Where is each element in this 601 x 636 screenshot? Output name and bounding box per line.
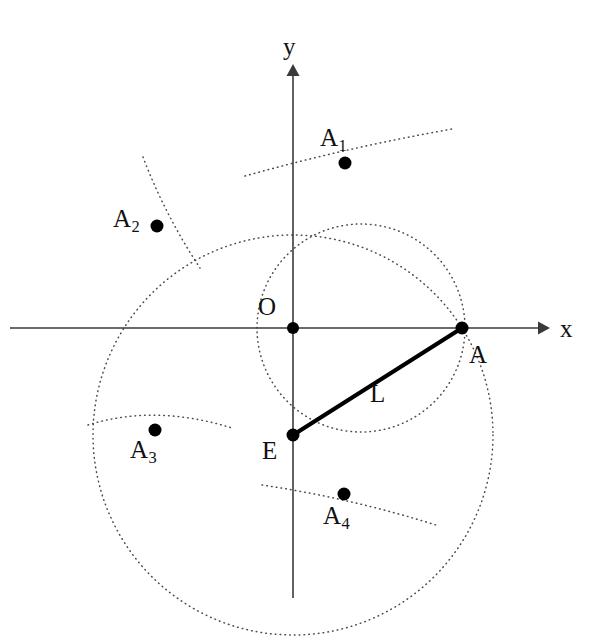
point-label-A3-subscript: 3 xyxy=(148,448,156,467)
segment-label-L: L xyxy=(370,381,385,406)
point-label-A4: A4 xyxy=(323,503,349,528)
point-label-A1: A1 xyxy=(320,125,346,150)
axes-group xyxy=(10,64,550,598)
figure-canvas xyxy=(0,0,601,636)
y-axis-arrowhead xyxy=(287,64,300,76)
point-label-A2-base: A xyxy=(113,205,131,232)
point-A4 xyxy=(338,488,351,501)
point-label-A4-base: A xyxy=(323,502,341,529)
point-label-A1-base: A xyxy=(320,124,338,151)
y-axis-label: y xyxy=(283,34,296,59)
point-label-A: A xyxy=(469,342,487,367)
x-axis-arrowhead xyxy=(538,322,550,335)
x-axis-label: x xyxy=(560,316,573,341)
construction-arc-through-A2 xyxy=(143,157,200,268)
point-label-A4-subscript: 4 xyxy=(341,514,349,533)
point-label-E: E xyxy=(262,438,277,463)
point-A3 xyxy=(149,424,162,437)
point-A1 xyxy=(339,157,352,170)
point-E xyxy=(287,429,300,442)
point-A2 xyxy=(151,220,164,233)
construction-arc-through-A1 xyxy=(245,129,452,176)
point-label-A3: A3 xyxy=(130,437,156,462)
point-O xyxy=(287,322,299,334)
construction-arcs-group xyxy=(88,129,452,525)
point-label-O: O xyxy=(258,294,276,319)
point-label-A3-base: A xyxy=(130,436,148,463)
geometry-figure: y x O A E A1 A2 A3 A4 L xyxy=(0,0,601,636)
point-A xyxy=(456,322,469,335)
point-label-A2-subscript: 2 xyxy=(131,217,139,236)
point-label-A2: A2 xyxy=(113,206,139,231)
point-label-A1-subscript: 1 xyxy=(338,136,346,155)
